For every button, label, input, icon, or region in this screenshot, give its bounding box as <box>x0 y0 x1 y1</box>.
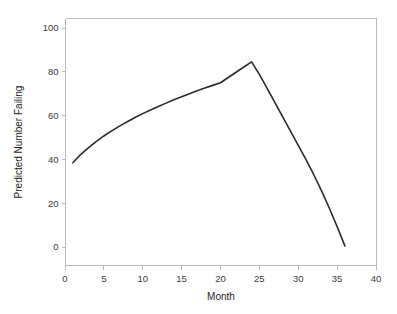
line-chart: 020406080100 0510152025303540 Month Pred… <box>0 0 397 314</box>
x-tick-label: 0 <box>62 273 67 284</box>
x-axis-ticks: 0510152025303540 <box>62 266 381 284</box>
y-tick-label: 20 <box>48 198 59 209</box>
x-tick-label: 30 <box>293 273 304 284</box>
y-tick-label: 100 <box>43 22 59 33</box>
x-tick-label: 5 <box>101 273 106 284</box>
y-tick-label: 0 <box>53 241 58 252</box>
y-tick-label: 80 <box>48 66 59 77</box>
y-axis-ticks: 020406080100 <box>43 22 66 252</box>
plot-frame-path <box>66 19 377 266</box>
x-axis-title: Month <box>207 291 235 302</box>
x-tick-label: 20 <box>215 273 226 284</box>
x-tick-label: 25 <box>254 273 265 284</box>
x-tick-label: 15 <box>176 273 187 284</box>
x-tick-label: 35 <box>332 273 343 284</box>
plot-frame <box>66 19 377 266</box>
x-tick-label: 10 <box>137 273 148 284</box>
y-tick-label: 60 <box>48 110 59 121</box>
data-series-line <box>73 62 345 246</box>
y-tick-label: 40 <box>48 154 59 165</box>
chart-container: 020406080100 0510152025303540 Month Pred… <box>0 0 397 314</box>
y-axis-title: Predicted Number Failing <box>13 86 24 199</box>
x-tick-label: 40 <box>371 273 382 284</box>
